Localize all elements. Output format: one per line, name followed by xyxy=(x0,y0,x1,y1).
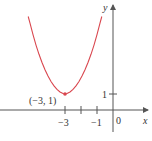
x-tick-label-neg1: −1 xyxy=(91,117,102,128)
vertex-point xyxy=(63,92,67,96)
x-tick-label-neg3: −3 xyxy=(58,117,69,128)
parabola-curve xyxy=(28,17,102,95)
x-axis-label: x xyxy=(142,115,148,126)
y-tick-label-1: 1 xyxy=(102,89,107,100)
origin-label: 0 xyxy=(116,115,121,126)
chart: (−3, 1) −3 −1 0 1 x y xyxy=(0,0,152,141)
vertex-label: (−3, 1) xyxy=(29,95,56,107)
y-axis-label: y xyxy=(102,2,108,13)
